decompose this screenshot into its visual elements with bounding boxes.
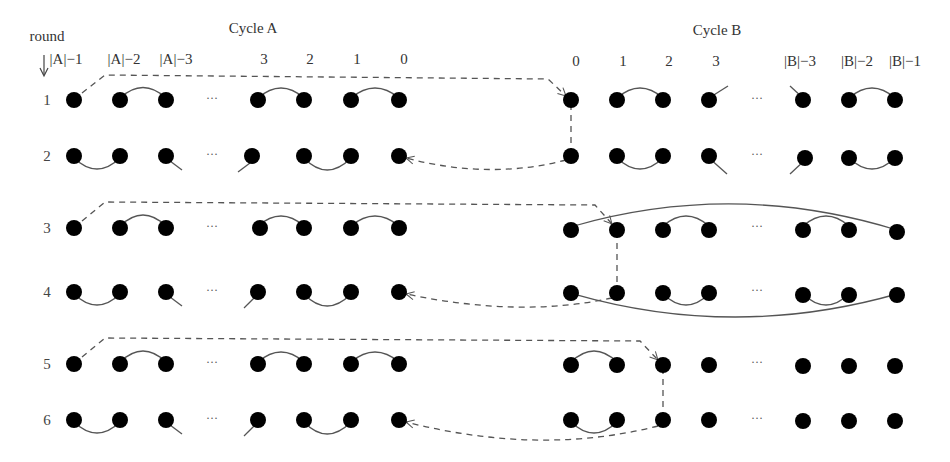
dashed-transfer-paths [82, 75, 663, 440]
row-4-nodes [66, 284, 905, 303]
row-2-nodes [66, 148, 903, 166]
dashed-path-r1-to-b0 [82, 75, 566, 96]
row-1-nodes [66, 92, 903, 108]
cycle-a-edges [74, 88, 399, 437]
row-5-nodes [66, 356, 903, 374]
dashed-path-r3-to-b1 [82, 202, 612, 224]
dashed-path-r2-back-to-a0 [406, 158, 566, 170]
row-6-nodes [66, 412, 903, 429]
round-down-arrow-icon [40, 55, 48, 76]
cycle-b-edges [571, 86, 897, 433]
row-3-nodes [66, 220, 905, 240]
cycle-diagram-canvas [0, 0, 950, 462]
nodes [66, 92, 905, 429]
